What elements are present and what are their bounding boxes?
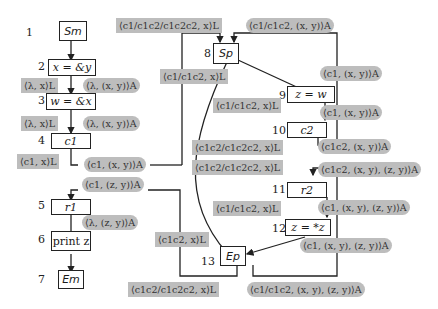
- label-n3-A: ⟨λ, (x, y)⟩A: [83, 116, 140, 131]
- label-n4-L: ⟨c1, x⟩L: [17, 154, 59, 169]
- node-number-7: 7: [38, 273, 45, 286]
- node-number-13: 13: [201, 255, 215, 268]
- node-print-z[interactable]: print z: [51, 231, 91, 251]
- label-n12-A: ⟨c1, (x, y), (z, y)⟩A: [300, 238, 392, 253]
- node-print-z-text: print z: [53, 235, 90, 248]
- label-n2-A: ⟨λ, (x, y)⟩A: [83, 78, 140, 93]
- node-r1[interactable]: r1: [51, 199, 91, 215]
- node-x-assign-text: x = &y: [53, 61, 91, 74]
- label-bottom-L: ⟨c1c2/c1c2c2, x⟩L: [128, 282, 219, 297]
- node-sm-text: Sm: [64, 25, 82, 38]
- label-n11-A-in: ⟨c1c2, (x, y), (z, y)⟩A: [318, 162, 421, 177]
- node-r2-text: r2: [301, 184, 313, 197]
- node-w-assign-text: w = &x: [50, 95, 92, 108]
- node-c2[interactable]: c2: [287, 122, 327, 138]
- node-em[interactable]: Em: [58, 270, 84, 289]
- node-sp-text: Sp: [219, 47, 233, 60]
- node-sm[interactable]: Sm: [59, 21, 87, 41]
- node-em-text: Em: [62, 273, 80, 286]
- label-n10-A-right: ⟨c1, (x, y)⟩A: [320, 105, 382, 120]
- node-r1-text: r1: [65, 201, 77, 214]
- node-ep-text: Ep: [226, 250, 240, 263]
- node-z-deref-text: z = *z: [291, 221, 324, 234]
- label-n10-A-out: ⟨c1c2, (x, y)⟩A: [318, 139, 391, 154]
- node-sp[interactable]: Sp: [213, 43, 239, 64]
- label-mid-L2: ⟨c1c2/c1c2c2, x⟩L: [192, 160, 283, 175]
- label-return1-A: ⟨c1, (z, y)⟩A: [82, 177, 144, 192]
- label-n4-A: ⟨c1, (x, y)⟩A: [84, 157, 146, 172]
- node-number-8: 8: [204, 47, 211, 60]
- label-sp-L: ⟨c1/c1c2, x⟩L: [160, 69, 228, 84]
- node-r2[interactable]: r2: [287, 182, 327, 198]
- label-top-left-L: ⟨c1/c1c2/c1c2c2, x⟩L: [116, 18, 222, 33]
- label-n5-A: ⟨λ, (z, y)⟩A: [82, 215, 138, 230]
- node-number-11: 11: [272, 183, 286, 196]
- node-z-assign-w-text: z = w: [295, 88, 326, 101]
- node-w-assign[interactable]: w = &x: [46, 93, 96, 110]
- node-number-5: 5: [38, 199, 45, 212]
- label-n3-L: ⟨λ, x⟩L: [21, 116, 58, 131]
- node-number-12: 12: [272, 222, 286, 235]
- node-c2-text: c2: [300, 124, 313, 137]
- label-ep-in-L: ⟨c1c2, x⟩L: [155, 232, 209, 247]
- label-n9-L: ⟨c1/c1c2, x⟩L: [213, 98, 281, 113]
- label-top-right-A: ⟨c1/c1c2, (x, y)⟩A: [246, 18, 334, 33]
- interprocedural-flow-diagram: 1 Sm 2 x = &y 3 w = &x 4 c1 5 r1 6 print…: [0, 0, 438, 309]
- label-mid-L1: ⟨c1c2/c1c2c2, x⟩L: [192, 140, 283, 155]
- label-n11-L: ⟨c1/c1c2, x⟩L: [213, 201, 281, 216]
- label-n2-L: ⟨λ, x⟩L: [21, 78, 58, 93]
- node-number-10: 10: [272, 124, 286, 137]
- node-ep[interactable]: Ep: [220, 246, 246, 266]
- label-bottom-A: ⟨c1/c1c2, (x, y), (z, y)⟩A: [247, 282, 365, 297]
- node-number-2: 2: [38, 60, 45, 73]
- node-number-4: 4: [38, 134, 45, 147]
- node-z-deref[interactable]: z = *z: [285, 219, 331, 236]
- node-number-3: 3: [38, 94, 45, 107]
- label-n11-A: ⟨c1, (x, y), (z, y)⟩A: [318, 200, 410, 215]
- node-z-assign-w[interactable]: z = w: [287, 86, 335, 103]
- node-number-1: 1: [26, 26, 33, 39]
- node-x-assign[interactable]: x = &y: [48, 59, 96, 76]
- label-n9-A-right: ⟨c1, (x, y)⟩A: [320, 66, 382, 81]
- node-number-6: 6: [38, 233, 45, 246]
- node-c1[interactable]: c1: [51, 133, 91, 149]
- node-c1-text: c1: [64, 135, 77, 148]
